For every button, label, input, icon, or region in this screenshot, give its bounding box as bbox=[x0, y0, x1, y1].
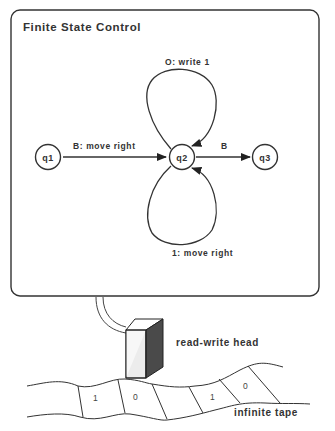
label-bottom-loop: 1: move right bbox=[172, 248, 233, 258]
tape-cell-4: 1 bbox=[210, 392, 215, 402]
tape-cell-5: 0 bbox=[243, 381, 248, 391]
label-q2-q3: B bbox=[221, 141, 228, 151]
transition-bottom-loop bbox=[148, 166, 217, 245]
head-label: read-write head bbox=[176, 337, 259, 348]
state-q2: q2 bbox=[170, 145, 195, 170]
svg-text:q1: q1 bbox=[42, 153, 54, 163]
control-title: Finite State Control bbox=[23, 21, 141, 33]
cable bbox=[96, 297, 126, 333]
label-q1-q2: B: move right bbox=[73, 141, 136, 151]
tape-cell-1: 1 bbox=[93, 393, 98, 403]
svg-text:q2: q2 bbox=[176, 153, 188, 163]
state-q3: q3 bbox=[253, 145, 278, 170]
svg-text:q3: q3 bbox=[259, 153, 271, 163]
state-q1: q1 bbox=[36, 145, 61, 170]
label-top-loop: O: write 1 bbox=[165, 57, 210, 67]
transition-top-loop bbox=[147, 69, 216, 149]
tape-label: infinite tape bbox=[234, 407, 298, 418]
read-write-head bbox=[126, 319, 163, 378]
turing-machine-diagram: Finite State Control O: write 1 1: move … bbox=[0, 0, 335, 431]
tape-cell-2: 0 bbox=[133, 392, 138, 402]
